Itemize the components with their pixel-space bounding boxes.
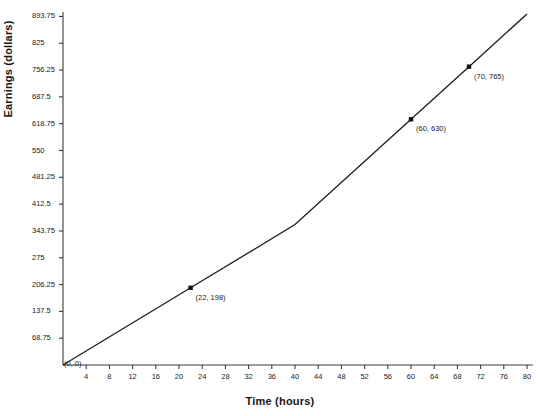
data-point-label: (60, 630) (416, 124, 446, 133)
data-point-label: (70, 765) (474, 72, 504, 81)
earnings-line-chart: Earnings (dollars) Time (hours) 68.75137… (0, 0, 540, 416)
x-axis-tick-label: 44 (306, 372, 330, 381)
x-axis-tick-label: 20 (167, 372, 191, 381)
x-axis-tick-label: 52 (353, 372, 377, 381)
data-point-label: (0, 0) (64, 359, 82, 368)
x-axis-tick-label: 28 (213, 372, 237, 381)
y-axis-tick-label: 68.75 (32, 333, 62, 342)
y-axis-tick-label: 481.25 (32, 172, 62, 181)
x-axis-tick-label: 32 (237, 372, 261, 381)
y-axis-tick-label: 687.5 (32, 92, 62, 101)
x-axis-tick-label: 48 (329, 372, 353, 381)
y-axis-tick-label: 756.25 (32, 65, 62, 74)
data-point-marker (409, 117, 413, 121)
y-axis-tick-label: 618.75 (32, 119, 62, 128)
x-axis-tick-label: 12 (121, 372, 145, 381)
y-axis-tick-label: 137.5 (32, 306, 62, 315)
x-axis-tick-label: 76 (492, 372, 516, 381)
x-axis-tick-label: 72 (469, 372, 493, 381)
y-axis-tick-label: 893.75 (32, 11, 62, 20)
x-axis-tick-label: 64 (422, 372, 446, 381)
y-axis-tick-label: 550 (32, 146, 62, 155)
x-axis-tick-label: 24 (190, 372, 214, 381)
data-point-label: (22, 198) (196, 293, 226, 302)
plot-area (0, 0, 540, 416)
y-axis-tick-label: 206.25 (32, 280, 62, 289)
data-line-earnings (63, 14, 527, 365)
y-axis-tick-label: 412.5 (32, 199, 62, 208)
x-axis-tick-label: 8 (97, 372, 121, 381)
x-axis-tick-label: 56 (376, 372, 400, 381)
x-axis-tick-label: 40 (283, 372, 307, 381)
y-axis-tick-label: 275 (32, 253, 62, 262)
data-point-marker (467, 64, 471, 68)
x-axis-tick-label: 80 (515, 372, 539, 381)
x-axis-tick-label: 16 (144, 372, 168, 381)
x-axis-tick-label: 4 (74, 372, 98, 381)
data-point-marker (188, 286, 192, 290)
x-axis-tick-label: 68 (445, 372, 469, 381)
x-axis-tick-label: 36 (260, 372, 284, 381)
y-axis-tick-label: 825 (32, 38, 62, 47)
y-axis-tick-label: 343.75 (32, 226, 62, 235)
x-axis-tick-label: 60 (399, 372, 423, 381)
